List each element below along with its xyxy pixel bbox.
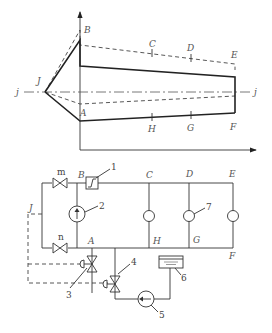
valve-n[interactable] xyxy=(52,243,68,253)
label-J-circuit: J xyxy=(27,203,34,213)
label-5: 5 xyxy=(159,310,165,320)
label-7: 7 xyxy=(206,202,212,212)
label-E: E xyxy=(230,50,238,60)
dashed-upper-line xyxy=(45,30,235,92)
leader-4 xyxy=(118,264,130,274)
label-B: B xyxy=(83,25,91,35)
tank-pipe xyxy=(154,268,170,299)
control-valve-4[interactable] xyxy=(103,276,120,292)
label-m: m xyxy=(57,167,66,177)
label-H: H xyxy=(147,124,156,134)
label-F: F xyxy=(229,122,237,132)
solid-lower-line xyxy=(45,92,235,121)
leader-2 xyxy=(85,206,98,212)
label-B-circuit: B xyxy=(77,170,85,180)
radiator-7[interactable] xyxy=(184,211,195,222)
valve-m[interactable] xyxy=(52,178,68,188)
label-H-circuit: H xyxy=(152,236,161,246)
diagram-canvas: B C D E A H G F J j j m n xyxy=(0,0,272,333)
label-j-right: j xyxy=(252,87,257,97)
label-3: 3 xyxy=(66,290,72,300)
circulation-pump-2[interactable] xyxy=(69,206,85,222)
leader-1 xyxy=(96,169,110,178)
label-2: 2 xyxy=(99,201,105,211)
label-E-circuit: E xyxy=(228,169,236,179)
label-F-circuit: F xyxy=(228,251,236,261)
radiator-C-H[interactable] xyxy=(144,211,155,222)
label-G: G xyxy=(187,123,194,133)
label-D-circuit: D xyxy=(185,169,193,179)
label-D: D xyxy=(186,43,194,53)
label-J: J xyxy=(35,76,42,86)
label-4: 4 xyxy=(131,257,137,267)
radiator-E-F[interactable] xyxy=(228,211,239,222)
label-6: 6 xyxy=(181,273,187,283)
label-1: 1 xyxy=(111,162,117,172)
label-n: n xyxy=(58,232,64,242)
leader-5 xyxy=(151,305,158,312)
label-A-circuit: A xyxy=(87,236,95,246)
heater-1[interactable] xyxy=(86,177,98,189)
label-A: A xyxy=(79,108,87,118)
pressure-diagram: B C D E A H G F J j j xyxy=(14,12,257,150)
label-G-circuit: G xyxy=(193,235,200,245)
control-valve-3[interactable] xyxy=(80,256,97,272)
label-j-left: j xyxy=(14,87,19,97)
leader-7 xyxy=(194,208,205,214)
label-C: C xyxy=(149,39,156,49)
hydraulic-circuit: m n 2 1 B A 7 C xyxy=(27,162,239,320)
dashed-lower-line xyxy=(45,92,235,104)
water-tank-6[interactable] xyxy=(159,256,183,268)
makeup-pump-5[interactable] xyxy=(138,291,154,307)
leader-3 xyxy=(70,268,87,288)
label-C-circuit: C xyxy=(146,170,153,180)
